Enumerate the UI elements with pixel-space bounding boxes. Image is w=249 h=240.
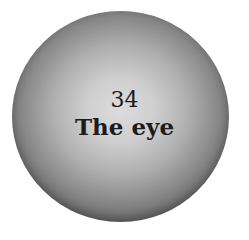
chapter-title: The eye [0,113,249,141]
chapter-number: 34 [0,87,249,113]
